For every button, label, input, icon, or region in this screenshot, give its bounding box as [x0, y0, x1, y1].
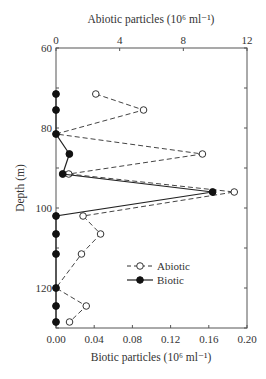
y-tick-label: 60: [41, 42, 53, 54]
bottom-axis-label: Biotic particles (10⁶ ml⁻¹): [91, 351, 212, 364]
bottom-tick-label: 0.12: [161, 333, 180, 345]
biotic-point: [53, 231, 60, 238]
abiotic-line: [56, 94, 234, 322]
top-tick-label: 0: [53, 34, 59, 46]
abiotic-point: [199, 151, 206, 158]
biotic-point: [209, 189, 216, 196]
legend-label-biotic: Biotic: [157, 274, 184, 286]
bottom-tick-label: 0.20: [237, 333, 257, 345]
legend: Abiotic Biotic: [127, 260, 190, 286]
bottom-tick-label: 0.04: [85, 333, 105, 345]
biotic-point: [53, 285, 60, 292]
depth-profile-chart: Abiotic particles (10⁶ ml⁻¹) Biotic part…: [0, 0, 266, 379]
biotic-point: [53, 131, 60, 138]
abiotic-point: [92, 91, 99, 98]
bottom-tick-label: 0.08: [123, 333, 143, 345]
biotic-point: [59, 171, 66, 178]
biotic-point: [53, 251, 60, 258]
plot-frame: [56, 48, 247, 328]
abiotic-point: [140, 107, 147, 114]
y-tick-label: 80: [41, 122, 53, 134]
biotic-point: [53, 213, 60, 220]
y-tick-label: 100: [36, 202, 53, 214]
biotic-point: [53, 303, 60, 310]
biotic-point: [66, 151, 73, 158]
top-axis-label: Abiotic particles (10⁶ ml⁻¹): [88, 13, 215, 26]
abiotic-point: [66, 319, 73, 326]
abiotic-point: [80, 213, 87, 220]
biotic-point: [53, 91, 60, 98]
top-tick-label: 4: [117, 34, 123, 46]
axis-ticks: [56, 48, 247, 328]
biotic-point: [53, 319, 60, 326]
open-circle-marker-icon: [137, 263, 144, 270]
top-tick-label: 12: [242, 34, 253, 46]
top-tick-label: 8: [181, 34, 187, 46]
axis-tick-labels: 6080100120048120.000.040.080.120.160.20: [36, 34, 258, 345]
biotic-point: [53, 107, 60, 114]
y-tick-label: 120: [36, 282, 53, 294]
y-axis-label: Depth (m): [14, 164, 27, 212]
legend-item-abiotic: Abiotic: [127, 260, 190, 272]
abiotic-point: [83, 303, 90, 310]
abiotic-point: [97, 231, 104, 238]
filled-circle-marker-icon: [137, 277, 144, 284]
bottom-tick-label: 0.16: [199, 333, 219, 345]
legend-label-abiotic: Abiotic: [157, 260, 190, 272]
abiotic-point: [231, 189, 238, 196]
bottom-tick-label: 0.00: [46, 333, 66, 345]
abiotic-point: [78, 251, 85, 258]
abiotic-series: [56, 91, 238, 326]
legend-item-biotic: Biotic: [127, 274, 184, 286]
